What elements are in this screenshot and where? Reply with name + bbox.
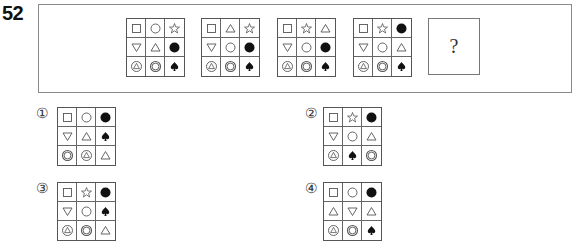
grid-cell [316,38,335,57]
grid-cell [146,19,165,38]
grid-cell [96,108,115,127]
grid-cell [77,146,96,165]
option-3-label[interactable]: ③ [36,180,49,196]
double-circle-icon [365,149,378,162]
option-2-label[interactable]: ② [305,105,318,121]
filled-circle-icon [365,111,378,124]
triangle-down-icon [357,41,370,54]
grid-cell [165,38,184,57]
grid-cell [278,38,297,57]
option-4-label[interactable]: ④ [305,180,318,196]
grid-cell [373,19,392,38]
double-circle-icon [149,60,162,73]
grid-cell [362,108,381,127]
star-icon [376,22,389,35]
star-icon [300,22,313,35]
triangle-up-icon [319,22,332,35]
grid-cell [58,202,77,221]
filled-circle-icon [365,186,378,199]
triangle-up-icon [99,149,112,162]
grid-cell [96,202,115,221]
grid-cell [77,183,96,202]
grid-cell [343,108,362,127]
circle-triangle-icon [327,149,340,162]
circle-icon [80,111,93,124]
circle-icon [346,130,359,143]
spade-icon [99,130,112,143]
grid-cell [77,108,96,127]
circle-triangle-icon [61,224,74,237]
sequence-grid-1 [126,18,185,77]
grid-cell [146,57,165,76]
spade-icon [319,60,332,73]
square-icon [281,22,294,35]
spade-icon [395,60,408,73]
triangle-down-icon [130,41,143,54]
circle-icon [149,22,162,35]
circle-icon [346,186,359,199]
circle-triangle-icon [130,60,143,73]
grid-cell [297,57,316,76]
grid-cell [165,19,184,38]
triangle-up-icon [149,41,162,54]
triangle-down-icon [281,41,294,54]
triangle-up-icon [80,130,93,143]
grid-cell [96,146,115,165]
grid-cell [297,19,316,38]
filled-circle-icon [99,186,112,199]
grid-cell [240,38,259,57]
sequence-grid-4 [353,18,412,77]
double-circle-icon [224,60,237,73]
circle-triangle-icon [357,60,370,73]
filled-circle-icon [99,111,112,124]
double-circle-icon [376,60,389,73]
circle-triangle-icon [205,60,218,73]
option-1-label[interactable]: ① [36,105,49,121]
grid-cell [202,19,221,38]
option-3-grid[interactable] [57,182,116,241]
grid-cell [240,19,259,38]
grid-cell [146,38,165,57]
option-4-grid[interactable] [323,182,382,241]
grid-cell [96,183,115,202]
grid-cell [58,183,77,202]
grid-cell [343,146,362,165]
grid-cell [96,127,115,146]
grid-cell [96,221,115,240]
filled-circle-icon [243,41,256,54]
grid-cell [58,146,77,165]
circle-triangle-icon [80,149,93,162]
triangle-up-icon [395,41,408,54]
option-1-grid[interactable] [57,107,116,166]
star-icon [243,22,256,35]
grid-cell [362,146,381,165]
grid-cell [58,127,77,146]
grid-cell [202,38,221,57]
grid-cell [221,19,240,38]
square-icon [327,111,340,124]
grid-cell [297,38,316,57]
option-2-grid[interactable] [323,107,382,166]
star-icon [80,186,93,199]
square-icon [205,22,218,35]
grid-cell [221,57,240,76]
spade-icon [346,149,359,162]
circle-triangle-icon [281,60,294,73]
grid-cell [324,221,343,240]
triangle-down-icon [346,205,359,218]
triangle-down-icon [205,41,218,54]
grid-cell [240,57,259,76]
square-icon [130,22,143,35]
grid-cell [278,19,297,38]
grid-cell [343,183,362,202]
grid-cell [362,127,381,146]
triangle-up-icon [365,205,378,218]
circle-triangle-icon [327,224,340,237]
grid-cell [392,38,411,57]
square-icon [327,186,340,199]
grid-cell [373,38,392,57]
double-circle-icon [61,149,74,162]
star-icon [168,22,181,35]
grid-cell [324,146,343,165]
triangle-up-icon [99,224,112,237]
